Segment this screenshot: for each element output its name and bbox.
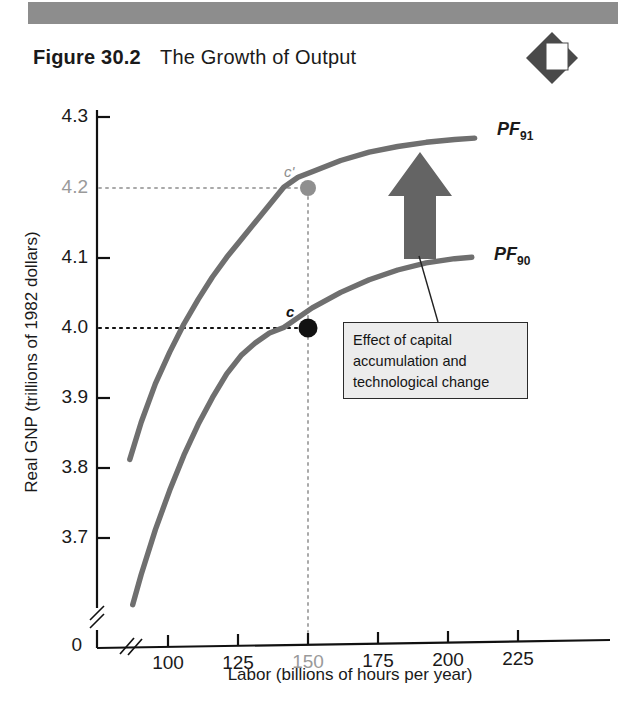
callout-leader-line [419, 256, 438, 322]
curve-label-pf90-sub: 90 [517, 254, 530, 268]
x-tick-150: 150 [278, 651, 338, 673]
point-label-c: c [286, 303, 294, 320]
y-tick-4-2: 4.2 [42, 176, 88, 198]
x-tick-225: 225 [488, 648, 548, 670]
callout-box: Effect of capital accumulation and techn… [343, 322, 528, 399]
point-c-prime [300, 180, 316, 196]
y-tick-3-7: 3.7 [42, 526, 88, 548]
curve-label-pf90: PF90 [494, 244, 530, 268]
x-tick-175: 175 [348, 650, 408, 672]
y-axis-label: Real GNP (trillions of 1982 dollars) [22, 152, 42, 572]
y-tick-3-9: 3.9 [42, 386, 88, 408]
up-arrow-shift-icon [388, 152, 452, 259]
pf91-curve [145, 188, 308, 474]
y-tick-4-3: 4.3 [42, 105, 88, 127]
point-c [299, 319, 318, 338]
origin-label: 0 [58, 634, 82, 656]
series-pf91 [145, 188, 308, 473]
y-tick-4-0: 4.0 [42, 316, 88, 338]
figure-page: Figure 30.2 The Growth of Output [0, 0, 618, 708]
curve-label-pf91: PF91 [497, 119, 533, 143]
x-tick-125: 125 [208, 652, 268, 674]
y-tick-3-8: 3.8 [42, 456, 88, 478]
callout-line-3: technological change [353, 372, 527, 393]
callout-line-2: accumulation and [353, 351, 527, 372]
callout-line-1: Effect of capital [353, 330, 527, 351]
curve-label-pf91-sub: 91 [520, 129, 533, 143]
pf90-curve [133, 257, 472, 604]
y-tick-4-1: 4.1 [42, 246, 88, 268]
curve-pf91 [145, 188, 308, 473]
point-label-c-prime: c' [284, 163, 294, 180]
x-axis [97, 640, 610, 648]
x-tick-100: 100 [138, 652, 198, 674]
curve-label-pf90-text: PF [494, 244, 517, 264]
curve-pf91-render [145, 188, 308, 473]
y-axis-break-icon [90, 606, 104, 628]
pf91-line [145, 188, 308, 474]
curve-label-pf91-text: PF [497, 119, 520, 139]
x-tick-200: 200 [418, 649, 478, 671]
